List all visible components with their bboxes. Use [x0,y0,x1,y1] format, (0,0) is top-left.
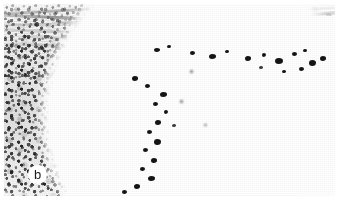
micrograph-image [4,4,335,196]
panel-label-text: b [34,168,41,181]
panel-label-b: b [28,165,47,184]
micrograph-figure: b [0,0,339,210]
clear-unstained-space [49,4,335,196]
